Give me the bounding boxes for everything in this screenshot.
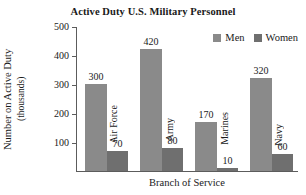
y-tick-label-100: 100	[54, 138, 69, 148]
y-tick-label-200: 200	[54, 109, 69, 119]
bar-value-marines-women: 10	[223, 156, 233, 166]
category-label-navy: Navy	[274, 124, 284, 146]
y-axis-title-main: Number on Active Duty	[3, 24, 14, 174]
bar-value-air-force-men: 300	[89, 72, 104, 82]
chart-title: Active Duty U.S. Military Personnel	[0, 6, 306, 17]
bar-value-navy-men: 320	[254, 66, 269, 76]
y-tick-100: 100	[72, 143, 76, 144]
category-label-air-force: Air Force	[109, 105, 119, 144]
plot-area: 500 400 300 200 100 300 70 Air Force 420…	[76, 27, 298, 172]
bar-value-army-men: 420	[144, 37, 159, 47]
x-axis-line	[76, 171, 298, 172]
category-label-army: Army	[165, 118, 175, 141]
y-tick-label-300: 300	[54, 80, 69, 90]
category-label-marines: Marines	[220, 112, 230, 145]
x-axis-title: Branch of Service	[76, 178, 298, 189]
bar-marines-women[interactable]: 10	[217, 168, 238, 171]
y-tick-500: 500	[72, 27, 76, 28]
bar-army-men[interactable]: 420	[140, 49, 162, 171]
bar-marines-men[interactable]: 170	[195, 122, 217, 171]
bar-air-force-men[interactable]: 300	[85, 84, 107, 171]
bar-navy-men[interactable]: 320	[250, 78, 272, 171]
y-tick-label-400: 400	[54, 51, 69, 61]
bar-navy-women[interactable]: 60	[272, 154, 293, 171]
bar-army-women[interactable]: 80	[162, 148, 183, 171]
y-axis-line	[76, 27, 77, 172]
bar-value-marines-men: 170	[199, 110, 214, 120]
y-tick-400: 400	[72, 56, 76, 57]
y-axis-title: Number on Active Duty (thousands)	[2, 24, 32, 174]
y-tick-200: 200	[72, 114, 76, 115]
bar-chart: Active Duty U.S. Military Personnel Numb…	[0, 0, 306, 195]
bar-air-force-women[interactable]: 70	[107, 151, 128, 171]
y-tick-300: 300	[72, 85, 76, 86]
y-axis-title-units: (thousands)	[17, 24, 27, 174]
y-tick-label-500: 500	[54, 22, 69, 32]
